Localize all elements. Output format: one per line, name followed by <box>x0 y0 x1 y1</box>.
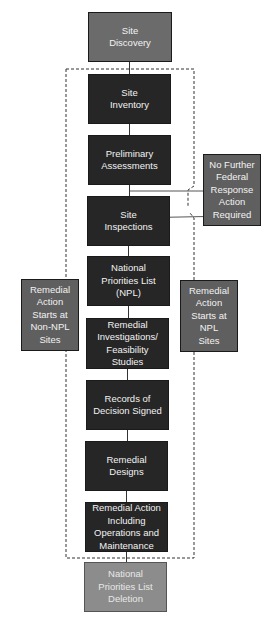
connector <box>126 490 127 502</box>
node-npl: National Priorities List (NPL) <box>87 256 170 306</box>
node-site-inspections: Site Inspections <box>87 196 170 246</box>
connector <box>127 429 128 441</box>
node-ri-fs: Remedial Investigations/ Feasibility Stu… <box>86 318 169 369</box>
node-npl-deletion: National Priorities List Deletion <box>84 562 167 612</box>
node-site-inventory: Site Inventory <box>88 74 171 124</box>
connector <box>129 184 130 196</box>
connector <box>129 62 130 74</box>
node-remedial-action: Remedial Action Including Operations and… <box>85 502 168 552</box>
connector <box>128 305 129 319</box>
node-non-npl-start: Remedial Action Starts at Non-NPL Sites <box>21 279 79 351</box>
connector <box>129 123 130 135</box>
node-site-discovery: Site Discovery <box>88 12 172 62</box>
node-remedial-designs: Remedial Designs <box>85 441 168 491</box>
node-preliminary-assessments: Preliminary Assessments <box>88 135 171 185</box>
node-no-further-action: No Further Federal Response Action Requi… <box>203 154 261 226</box>
node-records-of-decision: Records of Decision Signed <box>86 380 169 430</box>
node-npl-start: Remedial Action Starts at NPL Sites <box>180 280 238 352</box>
connector <box>127 368 128 380</box>
